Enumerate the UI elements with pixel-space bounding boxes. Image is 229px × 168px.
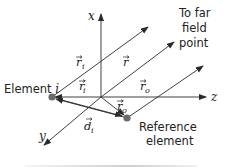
z-axis-label: z — [210, 90, 218, 104]
d-i-vector — [56, 99, 124, 117]
x-axis-label: x — [88, 9, 95, 23]
y-axis — [44, 97, 101, 145]
reference-element-label-2: element — [146, 134, 194, 148]
far-field-label-3: point — [179, 36, 209, 50]
r-vector — [101, 42, 174, 97]
array-geometry-diagram: x z y To far field point Element i Refer… — [0, 0, 229, 168]
label-r-i-prime: r ′ i — [79, 79, 86, 95]
far-field-label-1: To far — [178, 6, 211, 20]
r-o-vector — [127, 66, 203, 118]
label-r-o: r o — [140, 79, 150, 95]
reference-element-dot — [123, 114, 130, 121]
reference-element-label-1: Reference — [139, 120, 197, 134]
label-d-i: d i — [84, 118, 94, 136]
label-r-i: r i — [76, 55, 85, 71]
element-i-label: Element i — [4, 82, 59, 96]
r-i-vector — [52, 27, 148, 97]
svg-text:o: o — [122, 106, 127, 115]
y-axis-label: y — [38, 129, 46, 143]
label-r: r — [123, 55, 130, 69]
label-r-o-prime: r ′ o — [117, 99, 127, 115]
svg-text:i: i — [91, 126, 94, 135]
svg-text:i: i — [82, 62, 85, 71]
svg-text:o: o — [145, 86, 150, 95]
svg-text:i: i — [83, 86, 86, 95]
far-field-label-2: field — [182, 21, 207, 35]
bottom-rule — [25, 165, 197, 167]
